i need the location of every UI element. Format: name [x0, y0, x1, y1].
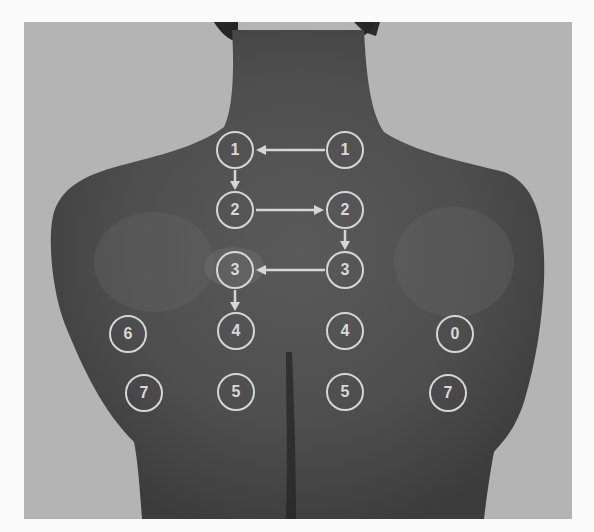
arrowhead-down-icon — [230, 302, 240, 311]
marker-m1-right: 1 — [326, 131, 364, 169]
marker-m2-left: 2 — [216, 191, 254, 229]
marker-m3-right: 3 — [326, 251, 364, 289]
arrowhead-left-icon — [256, 145, 266, 155]
arrowhead-right-icon — [314, 205, 324, 215]
marker-m7-right: 7 — [429, 374, 467, 412]
arrowhead-left-icon — [256, 265, 266, 275]
marker-m4-left: 4 — [217, 312, 255, 350]
marker-m3-left: 3 — [216, 251, 254, 289]
arrowhead-down-icon — [230, 181, 240, 190]
arrowhead-down-icon — [340, 241, 350, 250]
marker-m5-right: 5 — [326, 373, 364, 411]
marker-m4-right: 4 — [326, 312, 364, 350]
marker-m5-left: 5 — [217, 373, 255, 411]
arrows-layer — [0, 0, 594, 532]
marker-m6-left: 6 — [109, 315, 147, 353]
marker-m6-right: 0 — [436, 315, 474, 353]
marker-m2-right: 2 — [326, 191, 364, 229]
marker-m7-left: 7 — [125, 374, 163, 412]
marker-m1-left: 1 — [216, 131, 254, 169]
